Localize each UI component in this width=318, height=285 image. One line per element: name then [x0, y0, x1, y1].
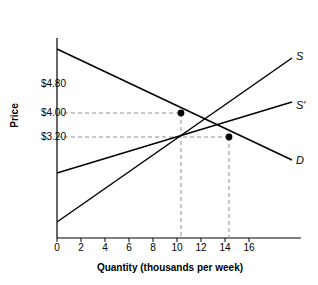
x-axis-title: Quantity (thousands per week): [40, 262, 300, 273]
equilibrium-marker-original: [178, 110, 185, 117]
xtick-label-8: 8: [144, 242, 162, 253]
xtick-label-12: 12: [192, 242, 210, 253]
xtick-label-4: 4: [96, 242, 114, 253]
supply-demand-chart: $4.80 $4.00 $3.20 0 2 4 6 8 10 12 14 16 …: [0, 0, 318, 285]
ytick-label-320: $3.20: [22, 131, 66, 142]
ytick-label-480: $4.80: [22, 78, 66, 89]
xtick-label-0: 0: [48, 242, 66, 253]
xtick-label-6: 6: [120, 242, 138, 253]
curve-label-supply: S: [296, 50, 303, 62]
xtick-label-16: 16: [240, 242, 258, 253]
y-axis-title: Price: [9, 86, 20, 146]
curve-label-supply-shifted: S′: [296, 99, 305, 111]
ytick-label-400: $4.00: [22, 107, 66, 118]
equilibrium-marker-new: [226, 134, 233, 141]
xtick-label-14: 14: [216, 242, 234, 253]
curve-label-demand: D: [296, 154, 304, 166]
xtick-label-2: 2: [72, 242, 90, 253]
xtick-label-10: 10: [168, 242, 186, 253]
